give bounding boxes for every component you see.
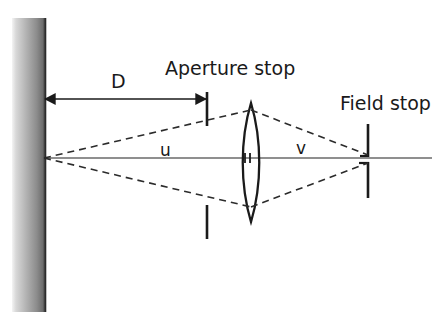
ray-upper-image-side [251, 110, 368, 155]
image-distance-v-label: v [296, 140, 306, 157]
aperture-stop-label: Aperture stop [165, 59, 295, 78]
ray-lower-object-side [44, 158, 251, 207]
optical-ray-diagram [0, 0, 440, 331]
object-distance-u-label: u [160, 142, 171, 159]
object-plane-bar [12, 18, 45, 312]
field-stop-label: Field stop [340, 94, 431, 113]
distance-d-label: D [111, 72, 126, 91]
ray-upper-object-side [44, 110, 251, 158]
figure-canvas: Aperture stop Field stop D u v [0, 0, 440, 331]
ray-lower-image-side [251, 163, 368, 207]
